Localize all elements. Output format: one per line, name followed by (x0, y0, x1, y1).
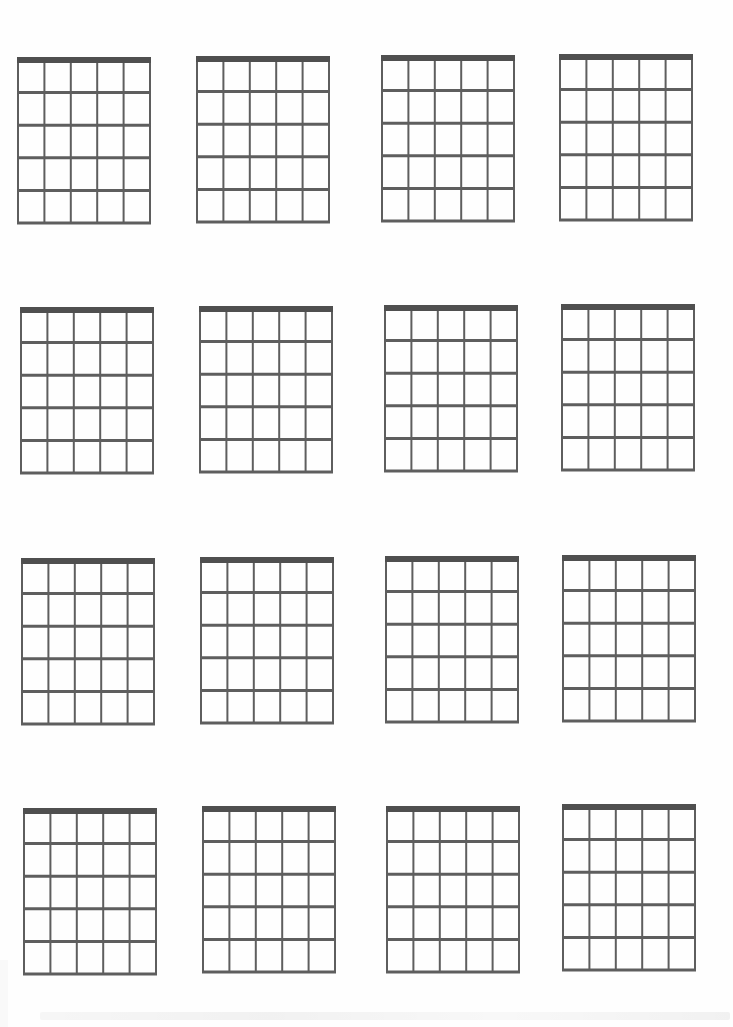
fretboard-diagram (385, 556, 519, 724)
nut-bar (17, 57, 151, 63)
fretboard-diagram (199, 306, 333, 474)
fretboard-diagram (562, 555, 696, 723)
chord-box-r2-c2 (199, 306, 333, 474)
fretboard-diagram (559, 54, 693, 222)
nut-bar (23, 808, 157, 814)
nut-bar (381, 55, 515, 61)
bleed-through-band (40, 1012, 730, 1020)
chord-box-r1-c3 (381, 55, 515, 223)
nut-bar (202, 806, 336, 812)
nut-bar (562, 804, 696, 810)
chord-box-r3-c4 (562, 555, 696, 723)
fretboard-diagram (561, 304, 695, 472)
chord-box-r2-c1 (20, 307, 154, 475)
fretboard-diagram (381, 55, 515, 223)
chord-box-r1-c2 (196, 56, 330, 224)
fretboard-diagram (23, 808, 157, 976)
fretboard-diagram (196, 56, 330, 224)
chord-chart-page (0, 0, 733, 1027)
nut-bar (384, 305, 518, 311)
fretboard-diagram (200, 557, 334, 725)
chord-box-r4-c3 (386, 806, 520, 974)
chord-box-r4-c1 (23, 808, 157, 976)
fretboard-diagram (562, 804, 696, 972)
nut-bar (386, 806, 520, 812)
nut-bar (559, 54, 693, 60)
chord-box-r2-c4 (561, 304, 695, 472)
chord-box-r3-c3 (385, 556, 519, 724)
fretboard-diagram (21, 558, 155, 726)
nut-bar (199, 306, 333, 312)
chord-box-r1-c4 (559, 54, 693, 222)
fretboard-diagram (384, 305, 518, 473)
nut-bar (200, 557, 334, 563)
chord-box-r3-c1 (21, 558, 155, 726)
chord-box-r4-c2 (202, 806, 336, 974)
chord-box-r2-c3 (384, 305, 518, 473)
chord-box-r1-c1 (17, 57, 151, 225)
fretboard-diagram (386, 806, 520, 974)
page-edge-shadow (0, 960, 8, 1027)
fretboard-diagram (202, 806, 336, 974)
nut-bar (385, 556, 519, 562)
fretboard-diagram (17, 57, 151, 225)
chord-box-r4-c4 (562, 804, 696, 972)
fretboard-diagram (20, 307, 154, 475)
nut-bar (196, 56, 330, 62)
nut-bar (20, 307, 154, 313)
nut-bar (562, 555, 696, 561)
chord-box-r3-c2 (200, 557, 334, 725)
nut-bar (21, 558, 155, 564)
nut-bar (561, 304, 695, 310)
